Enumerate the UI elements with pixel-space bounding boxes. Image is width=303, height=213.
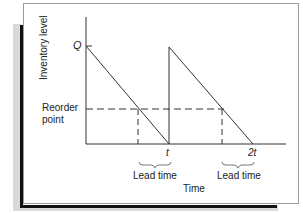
reorder-label-line2: point bbox=[42, 115, 64, 125]
two-t-label: 2t bbox=[248, 148, 256, 158]
lead-time-label-1: Lead time bbox=[133, 171, 177, 181]
y-axis-label: Inventory level bbox=[38, 16, 49, 80]
inventory-sawtooth bbox=[86, 46, 253, 144]
x-axis-label: Time bbox=[183, 184, 205, 194]
lead-time-label-2: Lead time bbox=[217, 171, 261, 181]
reorder-label-line1: Reorder bbox=[42, 103, 78, 113]
q-label: Q bbox=[73, 40, 82, 51]
lead-time-brace-1 bbox=[139, 162, 171, 168]
t-label: t bbox=[166, 148, 169, 158]
lead-time-brace-2 bbox=[222, 162, 254, 168]
